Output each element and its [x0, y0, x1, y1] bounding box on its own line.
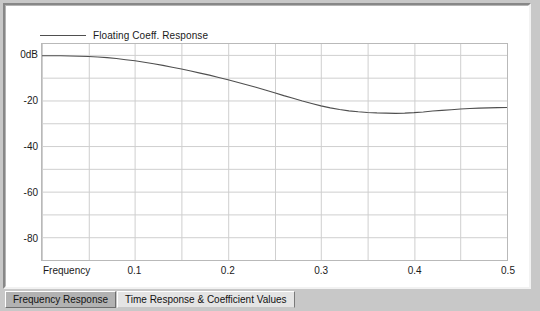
plot-area	[41, 43, 508, 261]
legend-line-swatch	[40, 35, 86, 36]
x-axis-tick-labels: 0.10.20.30.40.5	[41, 265, 508, 279]
frequency-response-plot	[42, 44, 507, 260]
x-axis-tick-label: 0.2	[221, 265, 235, 276]
y-axis-tick-labels: 0dB-20-40-60-80	[6, 43, 38, 261]
tab-strip: Frequency ResponseTime Response & Coeffi…	[0, 291, 540, 311]
chart-panel-inner: Floating Coeff. Response 0dB-20-40-60-80…	[5, 5, 529, 287]
chart-panel: Floating Coeff. Response 0dB-20-40-60-80…	[3, 3, 531, 289]
data-series-line	[42, 56, 507, 114]
legend-item-label: Floating Coeff. Response	[93, 30, 208, 41]
x-axis-tick-label: 0.3	[314, 265, 328, 276]
y-axis-tick-label: -20	[24, 95, 38, 106]
app-window: Floating Coeff. Response 0dB-20-40-60-80…	[0, 0, 540, 311]
y-axis-tick-label: -60	[24, 187, 38, 198]
tab-time-response-coefficient-values[interactable]: Time Response & Coefficient Values	[117, 291, 295, 308]
grid-lines	[42, 44, 507, 260]
y-axis-tick-label: -80	[24, 233, 38, 244]
y-axis-tick-label: 0dB	[20, 49, 38, 60]
plot-wrapper: Floating Coeff. Response 0dB-20-40-60-80…	[6, 6, 534, 292]
x-axis-tick-label: 0.1	[127, 265, 141, 276]
legend: Floating Coeff. Response	[40, 26, 208, 44]
data-series-lines	[42, 56, 507, 114]
y-axis-tick-label: -40	[24, 141, 38, 152]
x-axis-tick-label: 0.4	[408, 265, 422, 276]
tab-frequency-response[interactable]: Frequency Response	[5, 291, 116, 308]
x-axis-tick-label: 0.5	[501, 265, 515, 276]
